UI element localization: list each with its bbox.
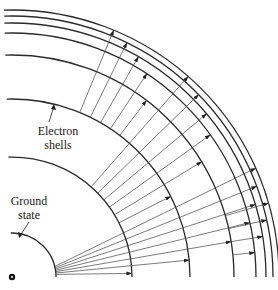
transition-arrow [56, 223, 250, 271]
transition-arrow [56, 273, 132, 274]
transition-arrow [56, 260, 189, 273]
transition-arrow [225, 203, 268, 215]
transition-arrow [104, 114, 207, 200]
transition-arrow [233, 253, 255, 255]
electron-shells-label: Electron shells [28, 124, 88, 152]
shell-shell-5 [5, 33, 256, 277]
transition-arrow [55, 204, 255, 269]
transition-arrow [110, 135, 211, 207]
transition-arrows [55, 30, 269, 274]
ground-state-label: Ground state [4, 194, 54, 222]
transition-arrow [110, 74, 146, 129]
transition-arrow [120, 100, 147, 135]
transition-arrow [98, 95, 199, 194]
transition-arrow [55, 186, 257, 267]
transition-arrow [119, 196, 171, 222]
electron-shells-label-line1: Electron [28, 124, 88, 138]
electron-shells-label-line2: shells [28, 138, 88, 152]
nucleus-dot-center [11, 276, 13, 278]
transition-arrow [101, 57, 139, 123]
ground-state-label-line2: state [4, 208, 54, 222]
transition-arrow [90, 43, 127, 118]
shell-ground-state [11, 233, 56, 277]
ground-state-label-line1: Ground [4, 194, 54, 208]
transition-arrow [231, 237, 263, 242]
shell-shell-4 [5, 55, 234, 277]
transition-arrow [80, 30, 114, 112]
transition-arrow [115, 162, 202, 215]
